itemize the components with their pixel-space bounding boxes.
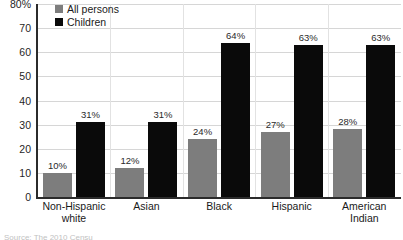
- x-axis-category-label: Non-Hispanic white: [42, 201, 105, 224]
- x-axis-labels: Non-Hispanic whiteAsianBlackHispanicAmer…: [38, 201, 401, 233]
- bar-children: [294, 45, 323, 197]
- legend-label: All persons: [67, 4, 119, 15]
- x-axis-line: [36, 197, 401, 199]
- gridline: [38, 76, 401, 77]
- y-tick-label: 60: [19, 47, 31, 57]
- bar-value-label: 31%: [81, 110, 100, 120]
- bar-value-label: 12%: [120, 156, 139, 166]
- legend-swatch-icon: [55, 5, 63, 13]
- y-tick-label: 50: [19, 71, 31, 81]
- legend-item: All persons: [55, 3, 185, 15]
- bar-value-label: 63%: [299, 33, 318, 43]
- group-separator: [255, 4, 256, 197]
- bar-value-label: 31%: [153, 110, 172, 120]
- bar-value-label: 27%: [266, 120, 285, 130]
- chart-legend: All personsChildren: [55, 3, 185, 29]
- bar-all-persons: [43, 173, 72, 197]
- plot-area: 10%31%12%31%24%64%27%63%28%63%: [38, 4, 401, 197]
- y-tick-label: 10: [19, 168, 31, 178]
- group-separator: [110, 4, 111, 197]
- x-axis-category-label: Asian: [133, 201, 159, 213]
- bar-all-persons: [188, 139, 217, 197]
- y-axis: 01020304050607080%: [0, 0, 33, 198]
- bar-children: [76, 122, 105, 197]
- bar-children: [366, 45, 395, 197]
- bar-value-label: 63%: [371, 33, 390, 43]
- y-tick-label: 30: [19, 120, 31, 130]
- source-note: Source: The 2010 Censu: [4, 233, 93, 240]
- y-tick-label: 20: [19, 144, 31, 154]
- x-axis-category-label: Hispanic: [272, 201, 312, 213]
- group-separator: [183, 4, 184, 197]
- bar-value-label: 28%: [338, 117, 357, 127]
- bar-all-persons: [115, 168, 144, 197]
- y-tick-label: 70: [19, 23, 31, 33]
- x-axis-category-label: Black: [206, 201, 232, 213]
- gridline: [38, 101, 401, 102]
- y-tick-label: 0: [25, 192, 31, 202]
- bar-all-persons: [261, 132, 290, 197]
- bar-value-label: 64%: [226, 31, 245, 41]
- legend-label: Children: [67, 17, 106, 28]
- bar-children: [221, 43, 250, 197]
- bar-value-label: 10%: [48, 161, 67, 171]
- y-tick-label: 40: [19, 96, 31, 106]
- bar-value-label: 24%: [193, 127, 212, 137]
- bar-all-persons: [333, 129, 362, 197]
- bar-chart: 01020304050607080% 10%31%12%31%24%64%27%…: [0, 0, 403, 240]
- bar-children: [148, 122, 177, 197]
- legend-item: Children: [55, 16, 185, 28]
- x-axis-category-label: American Indian: [342, 201, 386, 224]
- gridline: [38, 52, 401, 53]
- y-tick-label: 80%: [10, 0, 31, 9]
- group-separator: [328, 4, 329, 197]
- legend-swatch-icon: [55, 18, 63, 26]
